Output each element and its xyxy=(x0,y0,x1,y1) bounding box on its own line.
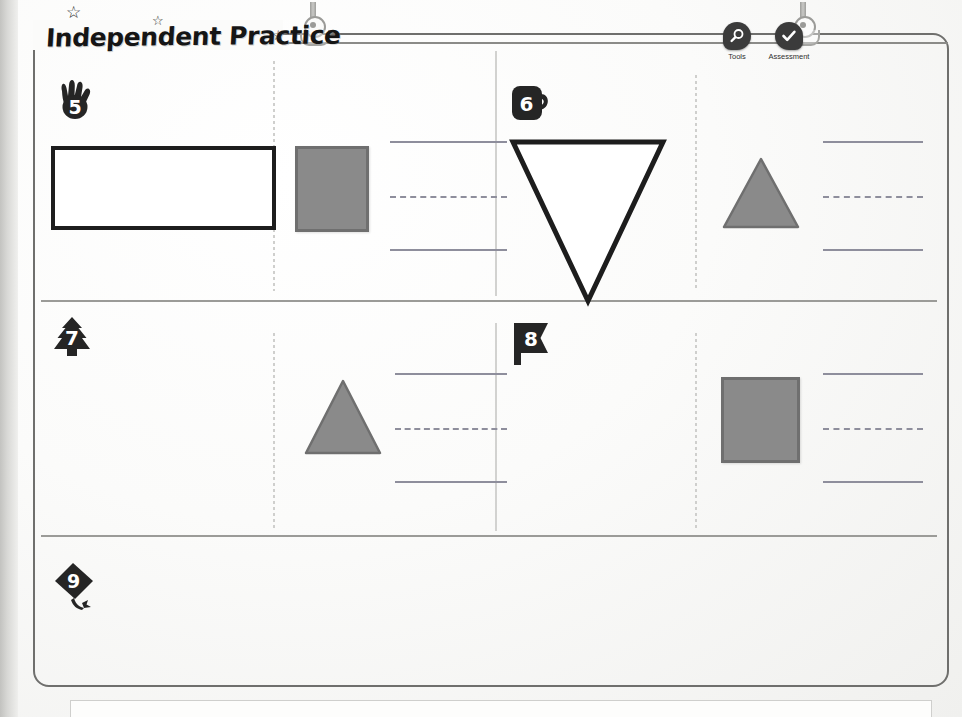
problem-5-number: 5 xyxy=(68,96,81,118)
flag-badge-icon: 8 xyxy=(511,321,555,365)
star-decoration-icon: ☆ xyxy=(272,28,285,42)
problem-5-badge: 5 xyxy=(53,77,97,121)
kite-badge-icon: 9 xyxy=(51,561,101,615)
bottom-toolbar-strip xyxy=(70,700,932,717)
problem-5-prompt-rectangle xyxy=(51,146,276,230)
assessment-check-icon xyxy=(775,22,803,50)
problem-8-number: 8 xyxy=(524,327,538,351)
problem-8-badge: 8 xyxy=(511,321,555,365)
problem-5-answer-square xyxy=(295,146,369,232)
row-separator xyxy=(41,535,937,537)
row-separator xyxy=(41,300,937,302)
page-title: Independent Practice xyxy=(45,20,341,52)
problem-6-badge: 6 xyxy=(510,83,554,127)
assessment-button-label: Assessment xyxy=(769,52,810,61)
problem-5-answer-lines xyxy=(390,141,507,251)
problem-8-answer-square xyxy=(721,377,800,463)
writing-line-middle xyxy=(395,428,507,430)
problem-6-prompt-triangle-down xyxy=(508,135,668,307)
hand-badge-icon: 5 xyxy=(53,77,99,125)
assessment-button[interactable]: Assessment xyxy=(766,22,812,61)
worksheet-page: Independent Practice ☆ ☆ ☆ Tools Assessm… xyxy=(0,0,962,717)
star-decoration-icon: ☆ xyxy=(66,4,81,21)
tools-button[interactable]: Tools xyxy=(714,22,760,61)
writing-line-bottom xyxy=(823,249,923,251)
column-divider-dotted xyxy=(695,333,697,529)
problem-7-answer-lines xyxy=(395,373,507,483)
writing-line-bottom xyxy=(823,481,923,483)
problem-6-number: 6 xyxy=(520,92,534,116)
writing-line-bottom xyxy=(395,481,507,483)
writing-line-top xyxy=(823,373,923,375)
writing-line-top xyxy=(395,373,507,375)
writing-line-top xyxy=(823,141,923,143)
tools-magnifier-icon xyxy=(723,22,751,50)
column-divider-dotted xyxy=(695,75,697,291)
problem-8-answer-lines xyxy=(823,373,923,483)
tree-badge-icon: 7 xyxy=(51,315,97,361)
page-title-wrap: Independent Practice xyxy=(46,22,341,51)
writing-line-middle xyxy=(823,196,923,198)
problem-6-answer-triangle-up xyxy=(721,156,801,230)
problem-7-number: 7 xyxy=(65,326,79,350)
page-left-edge-shadow xyxy=(0,0,18,717)
writing-line-top xyxy=(390,141,507,143)
writing-line-bottom xyxy=(390,249,507,251)
problem-9-badge: 9 xyxy=(51,561,95,605)
mug-badge-icon: 6 xyxy=(510,83,554,127)
practice-content: 5 6 xyxy=(33,33,945,683)
tools-button-label: Tools xyxy=(728,52,746,61)
problem-6-answer-lines xyxy=(823,141,923,251)
column-divider-dotted xyxy=(273,333,275,529)
writing-line-middle xyxy=(390,196,507,198)
toolbar: Tools Assessment xyxy=(714,22,812,61)
writing-line-middle xyxy=(823,428,923,430)
star-decoration-icon: ☆ xyxy=(152,14,164,27)
problem-9-number: 9 xyxy=(67,570,80,592)
problem-7-answer-triangle-up xyxy=(303,378,383,456)
problem-7-badge: 7 xyxy=(51,315,95,359)
